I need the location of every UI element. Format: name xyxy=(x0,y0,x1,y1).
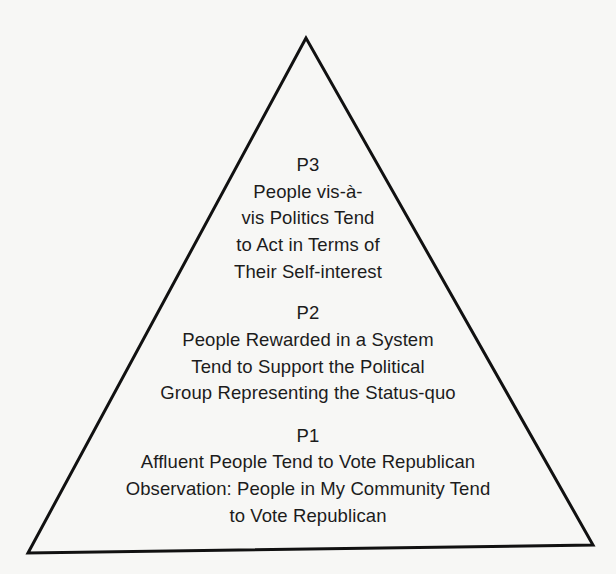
level-p3-line-2: vis Politics Tend xyxy=(0,207,616,229)
level-p2-label: P2 xyxy=(0,302,616,324)
level-p1-label: P1 xyxy=(0,425,616,447)
level-p1-line-3: to Vote Republican xyxy=(0,505,616,527)
level-p3-label: P3 xyxy=(0,154,616,176)
level-p3-line-3: to Act in Terms of xyxy=(0,234,616,256)
level-p2-line-1: People Rewarded in a System xyxy=(0,329,616,351)
level-p3-line-4: Their Self-interest xyxy=(0,261,616,283)
level-p2-line-2: Tend to Support the Political xyxy=(0,356,616,378)
level-p1-line-1: Affluent People Tend to Vote Republican xyxy=(0,451,616,473)
level-p2-line-3: Group Representing the Status-quo xyxy=(0,382,616,404)
level-p3-line-1: People vis-à- xyxy=(0,181,616,203)
triangle-outline xyxy=(28,38,593,553)
level-p1-line-2: Observation: People in My Community Tend xyxy=(0,478,616,500)
